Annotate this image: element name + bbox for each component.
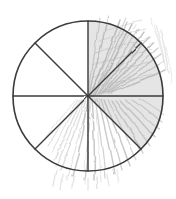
fraction-circle-figure: Circle divided into eight equal sectors … [0, 0, 176, 199]
fraction-circle-drawing [0, 0, 176, 199]
sector-dividers-group [13, 21, 163, 171]
